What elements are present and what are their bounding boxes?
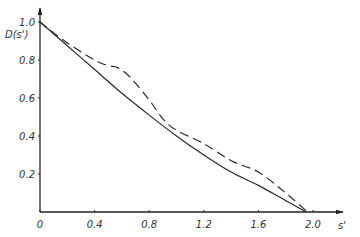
- x-tick-label: 0: [37, 219, 43, 230]
- y-ticks: 0.20.40.60.81.0: [19, 17, 40, 180]
- x-tick-label: 0.8: [141, 219, 157, 230]
- y-tick-label: 0.4: [19, 131, 35, 142]
- y-axis-label: D(s'): [5, 29, 28, 40]
- y-tick-label: 0.8: [19, 55, 35, 66]
- series-dashed-line: [40, 22, 308, 212]
- series-group: [40, 22, 308, 212]
- x-ticks: 00.40.81.21.62.0: [37, 210, 321, 230]
- line-chart: 00.40.81.21.62.0 0.20.40.60.81.0 D(s') s…: [0, 0, 360, 237]
- x-axis-label: s': [338, 220, 346, 231]
- y-tick-label: 0.6: [19, 93, 35, 104]
- y-tick-label: 1.0: [19, 17, 35, 28]
- x-tick-label: 1.2: [196, 219, 212, 230]
- x-tick-label: 0.4: [87, 219, 103, 230]
- x-tick-label: 2.0: [305, 219, 321, 230]
- axes: [40, 8, 343, 212]
- y-tick-label: 0.2: [19, 169, 35, 180]
- x-tick-label: 1.6: [250, 219, 266, 230]
